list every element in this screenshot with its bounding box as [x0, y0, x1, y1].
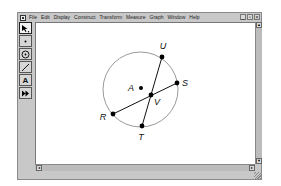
point-t[interactable]: [140, 124, 145, 129]
geometry-diagram: USAVRT: [0, 0, 281, 186]
point-v[interactable]: [149, 93, 154, 98]
segment-rs[interactable]: [113, 83, 177, 114]
label-t[interactable]: T: [138, 132, 145, 142]
label-s[interactable]: S: [182, 78, 188, 88]
point-r[interactable]: [111, 112, 116, 117]
point-s[interactable]: [175, 81, 180, 86]
point-a[interactable]: [139, 86, 143, 90]
label-u[interactable]: U: [160, 41, 167, 51]
label-r[interactable]: R: [100, 112, 107, 122]
label-v[interactable]: V: [154, 97, 161, 107]
point-u[interactable]: [160, 55, 165, 60]
points: USAVRT: [100, 41, 188, 142]
label-a[interactable]: A: [127, 83, 134, 93]
